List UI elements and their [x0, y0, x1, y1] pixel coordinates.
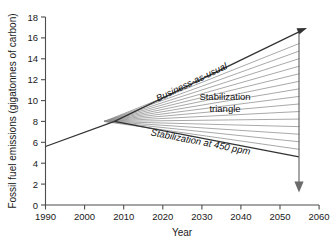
figure-container: 0 2 4 6 8 10 12 14 16 18 1990 2000 2010 — [0, 0, 332, 249]
y-tick-label-0: 0 — [33, 200, 38, 211]
y-axis-tick-labels: 0 2 4 6 8 10 12 14 16 18 — [27, 12, 38, 211]
y-tick-label-14: 14 — [27, 53, 38, 64]
x-tick-label-2030: 2030 — [191, 211, 212, 222]
vertical-marker-arrowhead — [294, 182, 303, 193]
annotation-stabilization-triangle-line1: Stabilization — [199, 91, 250, 102]
y-tick-label-12: 12 — [27, 74, 38, 85]
x-tick-label-1990: 1990 — [35, 211, 56, 222]
y-tick-label-16: 16 — [27, 32, 38, 43]
caption-ghost-row — [0, 240, 332, 249]
wedge-line — [104, 51, 299, 122]
vertical-marker-2055 — [294, 33, 303, 193]
y-tick-label-10: 10 — [27, 95, 38, 106]
x-axis-ticks — [46, 205, 320, 210]
annotation-stabilization-450ppm: Stabilization at 450 ppm — [150, 126, 252, 156]
wedge-line — [104, 121, 299, 134]
axes-group — [46, 17, 320, 205]
y-tick-label-18: 18 — [27, 12, 38, 23]
y-axis-ticks — [41, 17, 46, 205]
series-historical-line — [46, 121, 115, 146]
x-tick-label-2020: 2020 — [152, 211, 173, 222]
annotations-group: Business-as-usual Stabilization triangle… — [150, 60, 252, 157]
y-tick-label-6: 6 — [33, 137, 38, 148]
y-tick-label-4: 4 — [33, 158, 38, 169]
x-axis-tick-labels: 1990 2000 2010 2020 2030 2040 2050 2060 — [35, 211, 330, 222]
y-axis-title: Fossil fuel emissions (gigatonnes of car… — [7, 13, 18, 208]
y-tick-label-8: 8 — [33, 116, 38, 127]
x-axis-title: Year — [172, 227, 193, 238]
annotation-stabilization-triangle-line2: triangle — [209, 103, 240, 114]
y-tick-label-2: 2 — [33, 179, 38, 190]
x-tick-label-2060: 2060 — [309, 211, 330, 222]
x-tick-label-2000: 2000 — [74, 211, 95, 222]
business-as-usual-arrowhead — [297, 28, 308, 35]
x-tick-label-2040: 2040 — [230, 211, 251, 222]
x-tick-label-2050: 2050 — [269, 211, 290, 222]
emissions-stabilization-wedge-chart: 0 2 4 6 8 10 12 14 16 18 1990 2000 2010 — [0, 0, 332, 249]
x-tick-label-2010: 2010 — [113, 211, 134, 222]
